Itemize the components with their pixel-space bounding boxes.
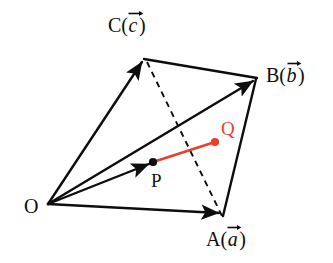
diagram-canvas: O C(c) B(b) A(a) P Q bbox=[0, 0, 333, 263]
point-p-dot bbox=[149, 158, 157, 166]
label-vertex-c: C(c) bbox=[108, 11, 146, 37]
segment-p-to-q bbox=[153, 142, 215, 162]
label-b-paren-open: ( bbox=[279, 64, 286, 87]
label-vertex-b: B(b) bbox=[266, 61, 305, 87]
label-b-paren-close: ) bbox=[298, 64, 305, 87]
point-q-dot bbox=[211, 138, 219, 146]
label-a-paren-close: ) bbox=[239, 228, 246, 251]
label-a-paren-open: ( bbox=[220, 228, 227, 251]
label-a-vector: a bbox=[228, 228, 238, 250]
label-b-letter: B bbox=[266, 64, 279, 86]
label-c-paren-close: ) bbox=[139, 14, 146, 37]
vector-o-to-a bbox=[48, 204, 219, 213]
vector-o-to-p bbox=[48, 164, 149, 204]
label-point-q: Q bbox=[221, 118, 235, 139]
label-c-paren-open: ( bbox=[121, 14, 128, 37]
svg-text:C(c): C(c) bbox=[108, 14, 146, 37]
label-a-letter: A bbox=[206, 228, 221, 250]
label-c-letter: C bbox=[108, 14, 121, 36]
vector-diagram-figure: O C(c) B(b) A(a) P Q bbox=[0, 0, 333, 263]
edge-c-to-b bbox=[144, 59, 257, 78]
label-vertex-a: A(a) bbox=[206, 225, 246, 251]
label-origin: O bbox=[24, 195, 38, 217]
svg-text:B(b): B(b) bbox=[266, 64, 305, 87]
label-c-vector: c bbox=[129, 14, 138, 36]
label-point-p: P bbox=[151, 170, 162, 191]
edge-b-to-a bbox=[223, 79, 256, 216]
label-b-vector: b bbox=[287, 64, 297, 86]
vector-o-to-c bbox=[48, 62, 142, 204]
svg-text:A(a): A(a) bbox=[206, 228, 246, 251]
